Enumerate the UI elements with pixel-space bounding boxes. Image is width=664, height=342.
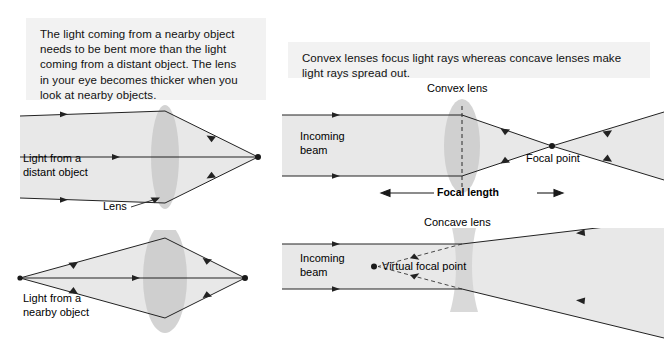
distant-beam-label: Light from a distant object — [23, 152, 88, 179]
concave-lens-label: Concave lens — [424, 216, 491, 230]
left-caption-text: The light coming from a nearby object ne… — [26, 18, 266, 111]
beam-shape-diverging-convex — [552, 112, 664, 180]
nearby-beam-label: Light from a nearby object — [23, 292, 89, 319]
convergence-point-nearby — [242, 275, 248, 281]
optics-figure: The light coming from a nearby object ne… — [0, 0, 664, 342]
virtual-focal-point-dot — [371, 264, 377, 270]
nearby-object-diagram-panel: Light from a nearby object — [0, 230, 280, 340]
convergence-point-distant — [255, 154, 261, 160]
lens-label: Lens — [103, 200, 127, 214]
convex-lens-label: Convex lens — [427, 82, 488, 96]
concave-lens-svg — [282, 228, 664, 342]
focal-point-label: Focal point — [526, 152, 580, 166]
concave-lens-diagram-panel: Concave lens Incoming beam Virtual focal… — [282, 228, 664, 342]
left-caption-box: The light coming from a nearby object ne… — [26, 18, 266, 100]
convex-lens-diagram-panel: Convex lens Incoming beam Focal point Fo… — [282, 96, 664, 206]
convex-incoming-beam-label: Incoming beam — [300, 130, 345, 157]
right-caption-box: Convex lenses focus light rays whereas c… — [288, 42, 650, 78]
virtual-focal-point-label: Virtual focal point — [382, 260, 466, 274]
nearby-object-svg — [0, 230, 280, 340]
concave-incoming-beam-label: Incoming beam — [300, 252, 345, 279]
focal-length-label: Focal length — [437, 186, 499, 200]
focal-point-dot-convex — [549, 143, 555, 149]
distant-object-diagram-panel: Light from a distant object Lens — [0, 100, 280, 210]
beam-shape-diverging-concave — [462, 228, 664, 338]
source-point-nearby — [17, 275, 22, 280]
